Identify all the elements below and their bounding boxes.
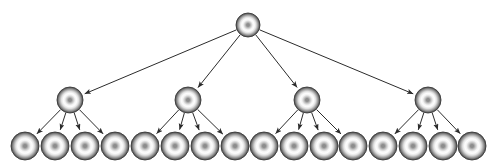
tree-node-l12[interactable] — [339, 132, 367, 160]
tree-edge — [79, 110, 103, 134]
node-sphere-icon — [415, 87, 441, 113]
node-sphere-icon — [175, 87, 201, 113]
tree-edge — [85, 30, 237, 94]
node-sphere-icon — [250, 132, 278, 160]
tree-edge — [299, 113, 304, 130]
tree-node-b2[interactable] — [175, 87, 201, 113]
tree-node-l15[interactable] — [429, 132, 457, 160]
tree-edge — [312, 113, 318, 130]
node-sphere-icon — [101, 132, 129, 160]
tree-node-l11[interactable] — [310, 132, 338, 160]
tree-node-l4[interactable] — [101, 132, 129, 160]
edge-layer — [37, 30, 460, 134]
node-sphere-icon — [236, 13, 260, 37]
node-sphere-icon — [294, 87, 320, 113]
node-sphere-icon — [131, 132, 159, 160]
node-sphere-icon — [429, 132, 457, 160]
tree-edge — [437, 110, 460, 134]
tree-edge — [198, 109, 223, 134]
tree-edge — [418, 113, 424, 130]
tree-node-l9[interactable] — [250, 132, 278, 160]
tree-node-l6[interactable] — [161, 132, 189, 160]
node-sphere-icon — [339, 132, 367, 160]
tree-node-b1[interactable] — [57, 87, 83, 113]
tree-diagram-svg — [0, 0, 495, 165]
node-sphere-icon — [191, 132, 219, 160]
tree-edge — [74, 113, 80, 130]
tree-node-l7[interactable] — [191, 132, 219, 160]
node-sphere-icon — [221, 132, 249, 160]
node-sphere-icon — [57, 87, 83, 113]
tree-node-l13[interactable] — [369, 132, 397, 160]
tree-node-l5[interactable] — [131, 132, 159, 160]
tree-edge — [395, 110, 419, 134]
tree-node-l3[interactable] — [71, 132, 99, 160]
tree-node-l1[interactable] — [11, 132, 39, 160]
tree-edge — [37, 110, 61, 134]
tree-edge — [432, 113, 438, 130]
node-sphere-icon — [399, 132, 427, 160]
node-sphere-icon — [310, 132, 338, 160]
tree-node-l10[interactable] — [280, 132, 308, 160]
node-sphere-icon — [458, 132, 486, 160]
node-sphere-icon — [369, 132, 397, 160]
node-sphere-icon — [161, 132, 189, 160]
node-sphere-icon — [41, 132, 69, 160]
node-layer — [11, 13, 486, 160]
tree-node-root[interactable] — [236, 13, 260, 37]
tree-node-b3[interactable] — [294, 87, 320, 113]
tree-node-l8[interactable] — [221, 132, 249, 160]
tree-edge — [198, 35, 240, 88]
tree-edge — [317, 110, 341, 134]
node-sphere-icon — [71, 132, 99, 160]
tree-edge — [60, 113, 66, 130]
tree-edge — [193, 113, 199, 130]
tree-node-l16[interactable] — [458, 132, 486, 160]
tree-edge — [276, 110, 298, 134]
tree-node-l14[interactable] — [399, 132, 427, 160]
node-sphere-icon — [280, 132, 308, 160]
node-sphere-icon — [11, 132, 39, 160]
tree-edge — [157, 110, 179, 134]
tree-node-b4[interactable] — [415, 87, 441, 113]
tree-diagram-canvas — [0, 0, 495, 165]
tree-node-l2[interactable] — [41, 132, 69, 160]
tree-edge — [180, 113, 185, 130]
tree-edge — [260, 30, 414, 94]
